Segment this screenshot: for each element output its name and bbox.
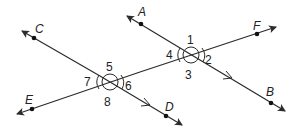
angle-label-3: 3	[185, 68, 192, 82]
point-label-d: D	[165, 100, 174, 114]
point-label-a: A	[137, 5, 146, 19]
point-c-dot	[32, 36, 37, 41]
point-label-e: E	[25, 93, 34, 107]
transversal-diagram: A B C D E F 1 2 3 4 5 6 7 8	[0, 0, 296, 131]
point-a-dot	[139, 22, 144, 27]
point-label-b: B	[266, 85, 274, 99]
angle-label-1: 1	[187, 33, 194, 47]
angle-label-8: 8	[104, 95, 111, 109]
point-d-dot	[164, 114, 169, 119]
angle-label-6: 6	[125, 79, 132, 93]
point-b-dot	[269, 101, 274, 106]
line-cd	[22, 31, 182, 125]
angle-label-2: 2	[205, 53, 212, 67]
angle-label-5: 5	[106, 60, 113, 74]
angle-label-7: 7	[84, 75, 91, 89]
angle-label-4: 4	[166, 48, 173, 62]
point-label-c: C	[35, 22, 44, 36]
point-e-dot	[30, 107, 35, 112]
point-label-f: F	[253, 19, 261, 33]
